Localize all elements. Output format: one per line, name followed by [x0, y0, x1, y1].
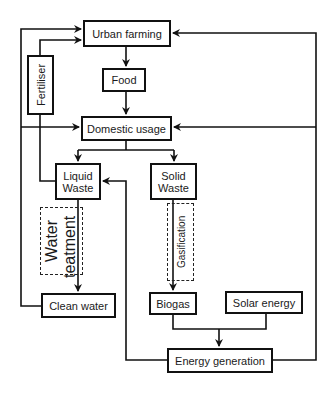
node-energy-generation: Energy generation: [167, 348, 273, 373]
node-clean-water: Clean water: [41, 293, 116, 318]
node-liquid-waste: Liquid Waste: [55, 163, 101, 200]
process-gasification: Gasification: [167, 203, 194, 281]
node-label: Energy generation: [175, 355, 265, 367]
node-label: Food: [111, 74, 136, 86]
node-label-line2: Waste: [158, 182, 189, 194]
node-biogas: Biogas: [149, 292, 197, 315]
node-label: Urban farming: [92, 28, 162, 40]
node-label-line2: Waste: [63, 182, 94, 194]
node-label: Clean water: [49, 300, 108, 312]
node-label: Domestic usage: [87, 123, 166, 135]
process-water-treatment: Water teatment: [40, 207, 83, 275]
node-label-line1: Liquid: [63, 170, 92, 182]
process-label-line1: Water: [43, 220, 61, 262]
node-domestic-usage: Domestic usage: [81, 116, 172, 141]
node-fertiliser: Fertiliser: [27, 55, 54, 115]
node-label: Solar energy: [233, 297, 295, 309]
node-urban-farming: Urban farming: [83, 20, 171, 47]
node-label-line1: Solid: [161, 170, 185, 182]
node-solar-energy: Solar energy: [225, 291, 303, 314]
node-solid-waste: Solid Waste: [150, 163, 197, 200]
process-label-line2: teatment: [61, 216, 79, 278]
process-label: Gasification: [176, 216, 187, 268]
node-label: Fertiliser: [35, 64, 47, 106]
node-label: Biogas: [156, 298, 190, 310]
node-food: Food: [102, 68, 146, 92]
